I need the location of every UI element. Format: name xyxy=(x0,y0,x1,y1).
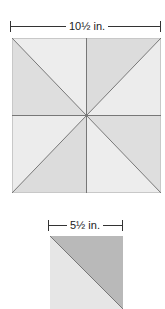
large-dim-label: 10½ in. xyxy=(66,20,108,32)
small-block xyxy=(50,236,123,309)
small-dim-label: 5½ in. xyxy=(67,219,103,231)
large-block xyxy=(12,38,161,193)
